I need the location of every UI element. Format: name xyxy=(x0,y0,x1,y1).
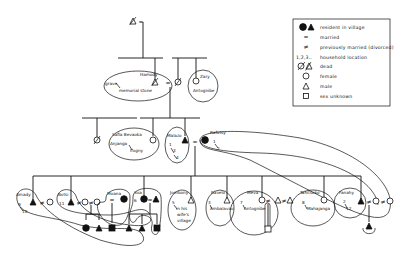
fanahy-household-2: 2 xyxy=(343,199,346,204)
soa-marriage-sign: = xyxy=(147,196,152,203)
legend-label-male: male xyxy=(320,84,332,89)
meva-name: Meva xyxy=(247,190,259,195)
legend-label-female: female xyxy=(320,74,337,79)
fanahy-group: Fanahy 2 12 ≠ ≠ xyxy=(334,188,393,234)
fanahy-second-divorce-sign: ≠ xyxy=(380,198,385,205)
ravelo-household-3: 3 xyxy=(208,200,211,205)
dead-male-ancestor-icon xyxy=(130,17,137,25)
botsi-ex-wife2-icon xyxy=(94,199,100,205)
botsi-child-resident-female-icon xyxy=(83,225,90,232)
botsi-resident-male-icon xyxy=(68,199,74,205)
jombony-group: Jombony 5 in his wife's village xyxy=(168,190,196,230)
gen2-marriage-sign: = xyxy=(165,79,170,86)
legend-dead-icon xyxy=(298,62,312,71)
generation-4: Amady 9 10 ≠ Botsi 11 ≠ ≠ xyxy=(16,176,393,245)
fanahy-ex-wife-icon xyxy=(373,198,379,204)
legend: resident in village = married ≠ previous… xyxy=(293,19,394,106)
botsi-divorce-sign: ≠ xyxy=(76,199,81,206)
soa-household-6: 6 xyxy=(134,198,137,203)
jombony-name: Jombony xyxy=(169,190,189,195)
kinship-diagram: resident in village = married ≠ previous… xyxy=(0,0,414,262)
safia-place2: Ifogny xyxy=(130,148,144,153)
rafotsy-household-2: 2 xyxy=(217,146,220,151)
safia-female-icon xyxy=(150,137,156,143)
tahitsoko-group: Tahitsoko 8 Mahajanga xyxy=(291,190,335,226)
fanahy-ex-wife2-icon xyxy=(387,198,393,204)
meva-group: Meva ≠ 7 Antognibe ≠ xyxy=(230,190,293,235)
botsi-ex-wife-divorce-sign: ≠ xyxy=(88,199,93,206)
tahitsoko-female-icon xyxy=(321,197,327,203)
jombony-place-line3: village xyxy=(177,218,191,223)
hamody-dead-male-icon xyxy=(152,78,159,86)
fanahy-name: Fanahy xyxy=(339,190,354,195)
hamody-note-grave: grave xyxy=(105,81,117,86)
hamody-name: Hamody xyxy=(140,72,158,77)
hamody-group xyxy=(104,71,172,101)
malazo-household-3: 3 xyxy=(173,148,176,153)
fanahy-child-resident-male-icon xyxy=(366,223,372,229)
gen3-marriage-sign: = xyxy=(192,138,197,145)
rafotsy-name: Rafotsy xyxy=(210,130,226,135)
tahitsoko-household-8: 8 xyxy=(302,200,305,205)
dead-female-icon xyxy=(175,78,181,86)
ravelo-male-icon xyxy=(224,197,230,203)
legend-label-household: household location xyxy=(320,55,367,60)
meva-child-sex-unknown-icon xyxy=(265,226,271,232)
dead-female-gen3-icon xyxy=(94,136,100,144)
malazo-name: Malazo xyxy=(167,133,182,138)
amady-ex-wife-icon xyxy=(47,199,53,205)
malazo-household-1: 1 xyxy=(169,142,172,147)
legend-label-divorced: previously married (divorced) xyxy=(320,45,394,50)
zary-name: Zary xyxy=(200,74,210,79)
legend-divorced-symbol: ≠ xyxy=(303,43,308,50)
meva-household-7: 7 xyxy=(240,200,243,205)
ravelo-group: Ravelo 3 Ambalavao xyxy=(206,190,234,226)
legend-label-resident: resident in village xyxy=(320,25,365,30)
legend-label-sex-unknown: sex unknown xyxy=(320,94,352,99)
jombony-household-5: 5 xyxy=(172,200,175,205)
ravelo-name: Ravelo xyxy=(211,190,226,195)
fanahy-divorce-sign: ≠ xyxy=(366,198,371,205)
legend-female-icon xyxy=(303,73,309,79)
botsi-ex-wife-icon xyxy=(82,199,88,205)
malazo-resident-male-icon xyxy=(182,137,188,143)
fanahy-resident-male-icon xyxy=(358,198,364,204)
legend-resident-icon xyxy=(300,24,314,31)
legend-married-symbol: = xyxy=(303,33,308,40)
rafotsy-group xyxy=(200,131,390,217)
zary-place: Antognibe xyxy=(193,88,215,93)
safia-place: Anjanga xyxy=(110,141,128,146)
legend-household-symbol: 1,2,3.. xyxy=(296,55,312,60)
soa-resident-female-icon xyxy=(141,196,148,203)
moana-child-resident-sex-unknown-icon xyxy=(109,225,115,231)
meva-second-divorce-sign: ≠ xyxy=(281,197,286,204)
legend-label-dead: dead xyxy=(320,64,332,69)
soa-name: Soa xyxy=(134,190,142,195)
meva-female-icon xyxy=(259,197,265,203)
meva-ex-husband-male-icon xyxy=(275,197,281,203)
legend-male-icon xyxy=(303,83,309,89)
moana-marriage-sign: = xyxy=(109,196,114,203)
moana-resident-female-icon xyxy=(121,196,128,203)
legend-sex-unknown-icon xyxy=(304,94,309,99)
tahitsoko-name: Tahitsoko xyxy=(299,190,320,195)
hamody-note-memorial: memorial stone xyxy=(119,88,152,93)
botsi-name: Botsi xyxy=(58,192,68,197)
rafotsy-resident-female-icon xyxy=(202,137,209,144)
amady-divorce-sign: ≠ xyxy=(39,199,44,206)
amady-household-9: 9 xyxy=(18,202,21,207)
soa-husband-resident-male-icon xyxy=(153,196,159,202)
soa-child3-resident-sex-unknown-icon xyxy=(154,225,160,231)
legend-label-married: married xyxy=(320,35,339,40)
jombony-place-line2: wife's xyxy=(177,212,189,217)
generation-2: Hamody grave memorial stone = Zary Antog… xyxy=(82,58,218,118)
amady-resident-male-icon xyxy=(30,199,36,205)
fanahy-household-12: 12 xyxy=(346,206,352,211)
amady-household-10: 10 xyxy=(22,209,28,214)
botsi-household-11: 11 xyxy=(59,201,65,206)
malazo-household-4: 4 xyxy=(176,155,179,160)
soa-child1-resident-male-icon xyxy=(126,225,132,231)
rafotsy-household-1: 1 xyxy=(213,139,216,144)
safia-name: Safia Bevaoka xyxy=(112,132,142,137)
jombony-place-line1: in his xyxy=(176,206,187,211)
